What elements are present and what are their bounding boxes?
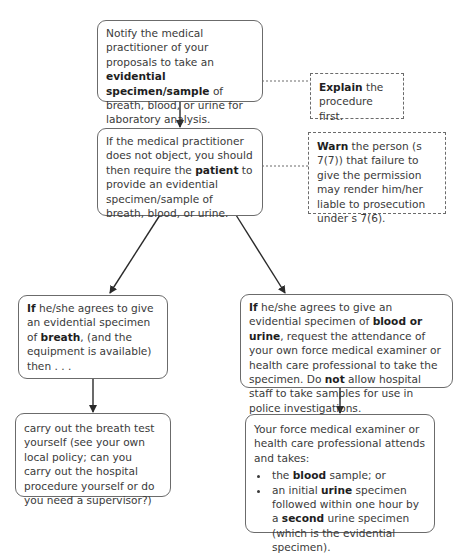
bullet-text-post: sample; or [326, 469, 386, 481]
arrow-step2-to-blood-urine [236, 215, 285, 293]
branch-bu-if: If [249, 301, 258, 313]
outcome-blood-urine: Your force medical examiner or health ca… [245, 414, 435, 533]
outcome-bu-bullet-blood: the blood sample; or [270, 468, 426, 482]
branch-breath-bold: breath [41, 331, 81, 343]
note-warn: Warn the person (s 7(7)) that failure to… [308, 132, 446, 214]
branch-bu-not: not [325, 373, 345, 385]
branch-breath: If he/she agrees to give an evidential s… [18, 295, 168, 379]
step1-bold: evidential specimen/sample [106, 70, 210, 96]
bullet-text: the [272, 469, 293, 481]
bullet-bold: urine [321, 484, 352, 496]
step-require-patient: If the medical practitioner does not obj… [97, 128, 263, 216]
outcome-breath-text: carry out the breath test yourself (see … [24, 422, 154, 506]
step-notify-practitioner: Notify the medical practitioner of your … [97, 20, 263, 102]
note-explain: Explain the procedure first. [310, 73, 404, 119]
note-explain-bold: Explain [319, 81, 363, 93]
outcome-bu-list: the blood sample; or an initial urine sp… [254, 468, 426, 553]
note-warn-text: the person (s 7(7)) that failure to give… [317, 140, 425, 224]
step2-bold: patient [195, 164, 238, 176]
step1-text: Notify the medical practitioner of your … [106, 27, 214, 68]
branch-blood-urine: If he/she agrees to give an evidential s… [240, 294, 453, 388]
outcome-bu-intro: Your force medical examiner or health ca… [254, 422, 426, 465]
bullet-text: an initial [272, 484, 321, 496]
outcome-bu-bullet-urine: an initial urine specimen followed withi… [270, 483, 426, 553]
bullet-bold-second: second [282, 512, 324, 524]
outcome-breath-test: carry out the breath test yourself (see … [15, 413, 171, 497]
branch-breath-if: If [27, 302, 36, 314]
arrow-step2-to-breath [110, 215, 160, 293]
note-warn-bold: Warn [317, 140, 348, 152]
bullet-bold: blood [293, 469, 326, 481]
branch-bu-text1: he/she agrees to give an evidential spec… [249, 301, 392, 327]
